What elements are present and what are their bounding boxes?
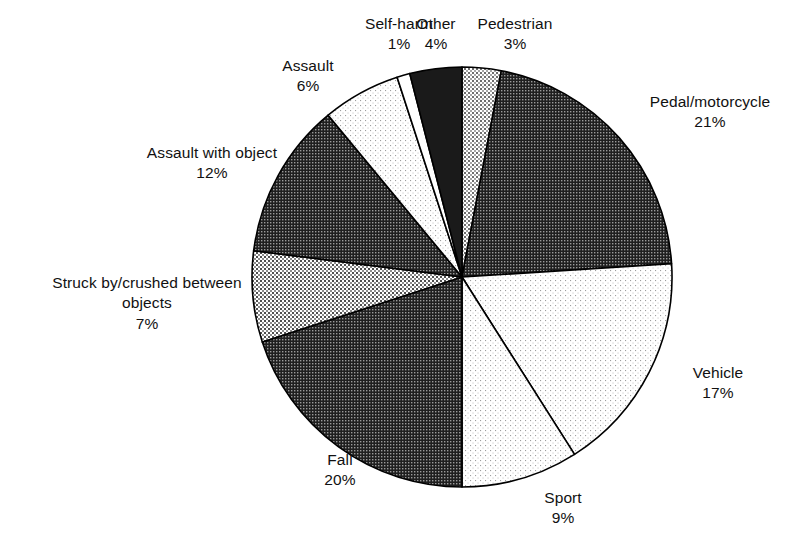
pie-slice-group xyxy=(252,67,672,487)
pie-slice-label-text: Fall xyxy=(290,450,390,470)
pie-slice-label: Vehicle17% xyxy=(663,363,773,404)
pie-slice-percent-text: 12% xyxy=(122,163,302,183)
pie-slice-percent-text: 4% xyxy=(401,34,471,54)
pie-slice-label: Pedestrian3% xyxy=(455,14,575,55)
pie-chart-figure: Pedestrian3%Pedal/motorcycle21%Vehicle17… xyxy=(0,0,804,554)
pie-slice-label: Other4% xyxy=(401,14,471,55)
pie-slice-percent-text: 7% xyxy=(38,314,256,334)
pie-slice-percent-text: 20% xyxy=(290,470,390,490)
pie-slice-percent-text: 17% xyxy=(663,383,773,403)
pie-slice-label: Assault with object12% xyxy=(122,143,302,184)
pie-slice-label-text: Pedal/motorcycle xyxy=(625,92,795,112)
pie-slice-label: Sport9% xyxy=(513,488,613,529)
pie-slice-label-text: Assault with object xyxy=(122,143,302,163)
pie-slice-label-text: Struck by/crushed between objects xyxy=(38,273,256,314)
pie-slice-label-text: Pedestrian xyxy=(455,14,575,34)
pie-slice-label: Pedal/motorcycle21% xyxy=(625,92,795,133)
pie-slice-label-text: Assault xyxy=(253,56,363,76)
pie-slice-label: Struck by/crushed between objects7% xyxy=(38,273,256,334)
pie-slice-percent-text: 3% xyxy=(455,34,575,54)
pie-slice-label: Fall20% xyxy=(290,450,390,491)
pie-slice-percent-text: 9% xyxy=(513,508,613,528)
pie-slice-percent-text: 21% xyxy=(625,112,795,132)
pie-slice-label: Assault6% xyxy=(253,56,363,97)
pie-slice-percent-text: 6% xyxy=(253,76,363,96)
pie-slice-label-text: Other xyxy=(401,14,471,34)
pie-slice-label-text: Vehicle xyxy=(663,363,773,383)
pie-slice-label-text: Sport xyxy=(513,488,613,508)
